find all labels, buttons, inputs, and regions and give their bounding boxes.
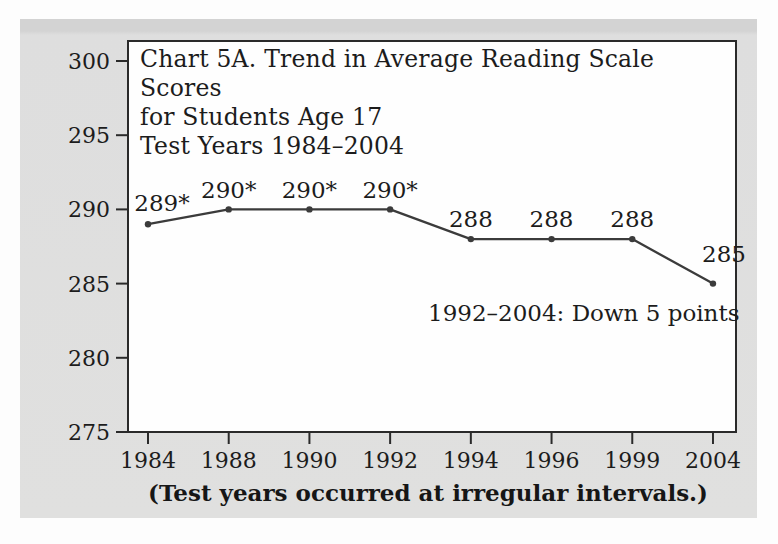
data-point-label: 288 (610, 206, 654, 232)
chart-panel: 3002952902852802751984198819901992199419… (20, 19, 757, 518)
y-axis-label: 280 (68, 346, 110, 371)
chart-title-line-3: Test Years 1984–2004 (140, 132, 730, 161)
data-point-label: 290* (282, 177, 338, 203)
chart-title: Chart 5A. Trend in Average Reading Scale… (140, 45, 730, 161)
scanned-figure: 3002952902852802751984198819901992199419… (0, 0, 778, 544)
x-axis-label: 1990 (281, 448, 337, 473)
data-point-label: 288 (449, 206, 493, 232)
data-point-label: 285 (702, 241, 746, 267)
data-point (226, 206, 232, 212)
data-point-label: 290* (362, 177, 418, 203)
data-point-label: 290* (201, 177, 257, 203)
data-point-label: 289* (134, 190, 190, 216)
chart-title-line-1: Chart 5A. Trend in Average Reading Scale… (140, 45, 730, 103)
data-point (629, 236, 635, 242)
y-axis-label: 275 (68, 420, 110, 445)
y-axis-label: 295 (68, 123, 110, 148)
y-axis-label: 300 (68, 49, 110, 74)
x-axis-caption: (Test years occurred at irregular interv… (108, 479, 748, 506)
data-point (145, 221, 151, 227)
data-point (710, 280, 716, 286)
data-point (387, 206, 393, 212)
x-axis-label: 1996 (524, 448, 580, 473)
x-axis-label: 1984 (120, 448, 176, 473)
data-point (468, 236, 474, 242)
x-axis-label: 1994 (443, 448, 499, 473)
data-point-label: 288 (530, 206, 574, 232)
chart-title-line-2: for Students Age 17 (140, 103, 730, 132)
data-point (306, 206, 312, 212)
y-axis-label: 290 (68, 197, 110, 222)
x-axis-label: 1999 (604, 448, 660, 473)
trend-annotation: 1992–2004: Down 5 points (428, 300, 739, 326)
y-axis-label: 285 (68, 272, 110, 297)
x-axis-label: 2004 (685, 448, 741, 473)
data-point (548, 236, 554, 242)
x-axis-label: 1992 (362, 448, 418, 473)
x-axis-label: 1988 (201, 448, 257, 473)
